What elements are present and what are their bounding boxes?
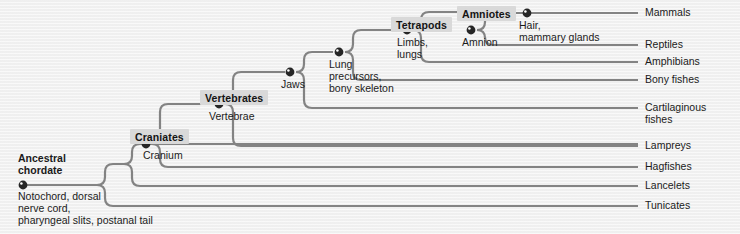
clade-label-amniotes: Amniotes xyxy=(457,6,516,22)
root-trait-line1: Notochord, dorsal xyxy=(18,191,101,203)
taxon-label-tunicates: Tunicates xyxy=(645,200,690,212)
clade-label-craniates: Craniates xyxy=(130,129,189,145)
taxon-label-lancelets: Lancelets xyxy=(645,180,690,192)
root-label-line2: chordate xyxy=(18,165,62,177)
trait-vertebrae: Vertebrae xyxy=(209,111,255,123)
branch-above-tunicates xyxy=(97,164,124,185)
clade-chip-tetrapods: Tetrapods xyxy=(391,14,452,32)
taxon-label-mammals: Mammals xyxy=(645,7,691,19)
trait-limbs-lungs-line1: Limbs, xyxy=(397,37,428,49)
node-mammals xyxy=(523,9,532,18)
root-trait-line3: pharyngeal slits, postanal tail xyxy=(18,215,153,227)
taxon-label-bony-fishes: Bony fishes xyxy=(645,74,699,86)
node-gnathostomes xyxy=(286,68,295,77)
trait-lung-precursors-line1: Lung xyxy=(329,59,352,71)
taxon-label-hagfishes: Hagfishes xyxy=(645,161,692,173)
clade-label-vertebrates: Vertebrates xyxy=(200,90,268,106)
trait-lung-precursors-line3: bony skeleton xyxy=(329,83,394,95)
trait-amnion: Amnion xyxy=(462,37,498,49)
tree-nodes xyxy=(19,9,532,190)
trait-limbs-lungs-line2: lungs xyxy=(397,49,422,61)
trait-jaws: Jaws xyxy=(281,79,305,91)
clade-label-tetrapods: Tetrapods xyxy=(391,17,452,33)
trait-hair-mammary-line1: Hair, xyxy=(519,20,541,32)
root-label-line1: Ancestral xyxy=(18,153,66,165)
tree-branches xyxy=(0,0,740,234)
phylogenetic-tree-figure: Ancestral chordate Notochord, dorsal ner… xyxy=(0,0,740,234)
branch-hagfishes xyxy=(152,144,638,167)
taxon-label-reptiles: Reptiles xyxy=(645,39,683,51)
node-root xyxy=(19,181,28,190)
branch-tunicates xyxy=(97,185,638,206)
branch-bony-fishes xyxy=(345,52,638,80)
root-trait-line2: nerve cord, xyxy=(18,203,71,215)
branch-osteichthyans-stem xyxy=(296,52,333,72)
taxon-label-cartilaginous-fishes-line2: fishes xyxy=(645,114,672,126)
taxon-label-cartilaginous-fishes-line1: Cartilaginous xyxy=(645,102,706,114)
node-amniotes xyxy=(467,26,476,35)
node-osteichthyans xyxy=(335,48,344,57)
clade-chip-amniotes: Amniotes xyxy=(457,3,516,21)
clade-chip-craniates: Craniates xyxy=(130,126,189,144)
clade-chip-vertebrates: Vertebrates xyxy=(200,87,268,105)
branch-lampreys xyxy=(225,104,638,146)
taxon-label-lampreys: Lampreys xyxy=(645,140,691,152)
branch-tetrapods-stem xyxy=(345,30,401,52)
trait-hair-mammary-line2: mammary glands xyxy=(519,32,600,44)
trait-lung-precursors-line2: precursors, xyxy=(329,71,382,83)
trait-cranium: Cranium xyxy=(143,150,183,162)
taxon-label-amphibians: Amphibians xyxy=(645,56,700,68)
